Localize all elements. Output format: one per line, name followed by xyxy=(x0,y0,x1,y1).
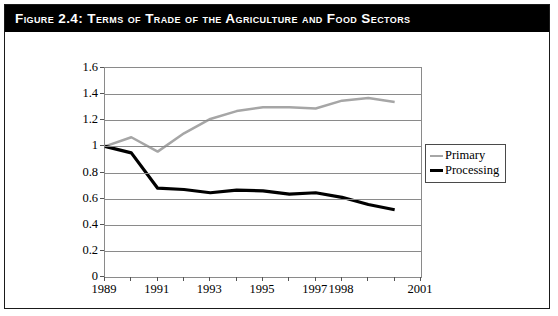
x-axis-tick-mark xyxy=(420,277,421,281)
gridline xyxy=(105,146,421,147)
legend-swatch-primary-icon xyxy=(430,155,443,157)
x-axis-tick-mark xyxy=(288,277,289,281)
x-axis-labels: 1989199119931995199719982001 xyxy=(104,283,420,301)
y-axis-tick-label: 0.6 xyxy=(82,192,98,205)
x-axis-tick-mark xyxy=(367,277,368,281)
y-axis-tick-label: 1 xyxy=(92,139,98,152)
chart-area: 00.20.40.60.811.21.41.6 1989199119931995… xyxy=(5,32,549,308)
x-axis-tick-label: 1993 xyxy=(197,283,222,296)
x-axis-tick-mark xyxy=(183,277,184,281)
figure-title: Figure 2.4: Terms of Trade of the Agricu… xyxy=(5,11,410,26)
gridline xyxy=(105,199,421,200)
x-axis-tick-label: 1989 xyxy=(92,283,117,296)
x-axis-tick-mark xyxy=(394,277,395,281)
y-axis-tick-label: 1.4 xyxy=(82,87,98,100)
y-axis-tick-label: 0.8 xyxy=(82,166,98,179)
x-axis-tick-mark xyxy=(262,277,263,281)
gridline xyxy=(105,120,421,121)
y-axis-labels: 00.20.40.60.811.21.41.6 xyxy=(60,67,98,276)
gridline xyxy=(105,225,421,226)
figure-title-bar: Figure 2.4: Terms of Trade of the Agricu… xyxy=(5,5,549,32)
y-axis-tick-label: 1.2 xyxy=(82,113,98,126)
x-axis-tick-mark xyxy=(315,277,316,281)
series-line-processing xyxy=(105,146,395,209)
x-axis-tick-label: 1991 xyxy=(144,283,169,296)
x-axis-tick-mark xyxy=(104,277,105,281)
y-axis-tick-label: 0.4 xyxy=(82,218,98,231)
x-axis-tick-mark xyxy=(209,277,210,281)
x-axis-tick-mark xyxy=(236,277,237,281)
y-axis-tick-label: 0.2 xyxy=(82,244,98,257)
figure-frame: Figure 2.4: Terms of Trade of the Agricu… xyxy=(4,4,550,309)
y-axis-tick-label: 0 xyxy=(92,270,98,283)
legend-item-processing: Processing xyxy=(430,163,499,178)
legend-swatch-processing-icon xyxy=(430,169,443,172)
x-axis-tick-mark xyxy=(130,277,131,281)
gridline xyxy=(105,251,421,252)
chart-legend: Primary Processing xyxy=(425,144,506,183)
y-axis-tick-label: 1.6 xyxy=(82,61,98,74)
legend-label-processing: Processing xyxy=(445,164,499,177)
gridline xyxy=(105,173,421,174)
x-axis-tick-label: 2001 xyxy=(408,283,433,296)
x-axis-tick-label: 1995 xyxy=(250,283,275,296)
gridline xyxy=(105,94,421,95)
x-axis-tick-label: 1998 xyxy=(329,283,354,296)
plot-area xyxy=(104,67,422,278)
legend-item-primary: Primary xyxy=(430,148,499,163)
x-axis-tick-label: 1997 xyxy=(302,283,327,296)
x-axis-tick-mark xyxy=(157,277,158,281)
x-axis-tick-mark xyxy=(341,277,342,281)
series-line-primary xyxy=(105,98,395,152)
legend-label-primary: Primary xyxy=(445,149,485,162)
